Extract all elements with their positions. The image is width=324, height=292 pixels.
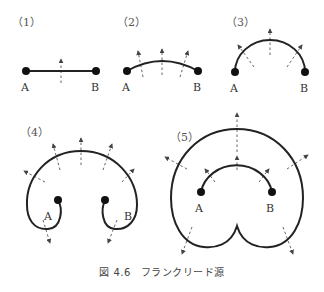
label-a: A	[20, 81, 30, 94]
label-b: B	[266, 202, 274, 215]
panel-5: （5） A B	[165, 113, 308, 254]
pin-point-b	[92, 67, 100, 75]
panel-5-label: （5）	[170, 131, 199, 144]
force-arrow	[108, 220, 117, 243]
label-a: A	[194, 202, 204, 215]
force-arrow	[283, 227, 293, 254]
caption-number: 図 4.6	[99, 267, 131, 278]
figure-caption: 図 4.6フランクリード源	[0, 264, 324, 279]
pin-point-a	[22, 67, 30, 75]
panel-3-label: （3）	[226, 16, 255, 29]
label-b: B	[300, 82, 308, 95]
panel-2: （2） A B	[117, 16, 202, 94]
frank-read-source-figure: （1） A B （2） A B （3） A B （4）	[0, 0, 324, 292]
force-arrow	[43, 220, 50, 243]
label-b: B	[91, 81, 99, 94]
panel-4-label: （4）	[20, 126, 49, 139]
panel-2-label: （2）	[117, 16, 146, 29]
pin-point-b	[101, 196, 109, 204]
diagram-canvas: （1） A B （2） A B （3） A B （4）	[0, 0, 324, 292]
label-a: A	[229, 82, 239, 95]
panel-3: （3） A B	[226, 16, 309, 95]
label-b: B	[193, 81, 201, 94]
pin-point-a	[54, 196, 62, 204]
pin-point-b	[301, 68, 309, 76]
panel-1: （1） A B	[12, 16, 100, 94]
label-b: B	[124, 210, 132, 223]
label-a: A	[121, 81, 131, 94]
pin-point-b	[194, 67, 202, 75]
label-a: A	[43, 210, 53, 223]
pin-point-b	[268, 188, 276, 196]
panel-4: （4） A B	[20, 126, 137, 243]
pin-point-a	[123, 67, 131, 75]
pin-point-a	[231, 68, 239, 76]
force-arrow	[165, 157, 187, 169]
pin-point-a	[197, 188, 205, 196]
panel-1-label: （1）	[12, 16, 41, 29]
caption-title: フランクリード源	[141, 267, 225, 278]
